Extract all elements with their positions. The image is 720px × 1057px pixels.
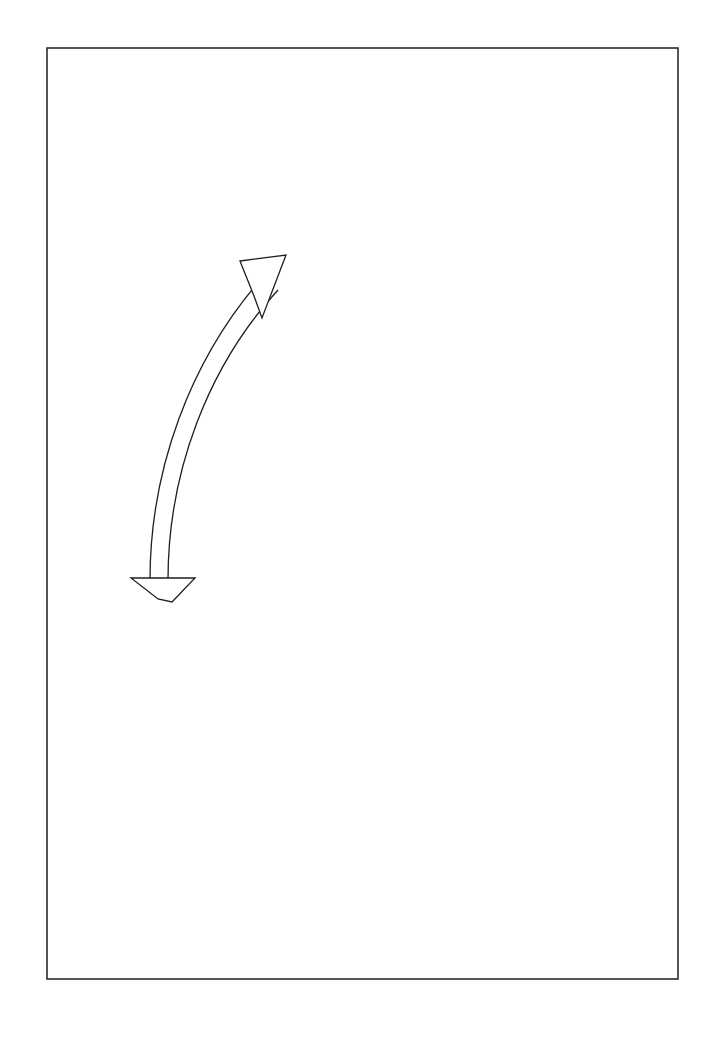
- plot-frame: [47, 48, 678, 979]
- ommatidia-map-figure: [0, 0, 720, 1057]
- arrowhead-down-icon: [131, 578, 195, 602]
- arrowhead-up-icon: [240, 255, 286, 318]
- connected-arrow: [131, 255, 286, 602]
